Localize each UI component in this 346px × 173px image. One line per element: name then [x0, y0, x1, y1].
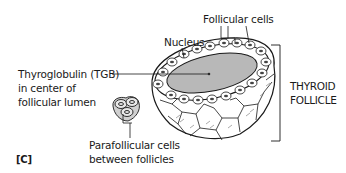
- thyroid-follicle-label-line1: THYROID: [290, 80, 335, 93]
- parafollicular-cells-drawing: [113, 97, 140, 121]
- thyroid-follicle-label-line2: FOLLICLE: [290, 94, 337, 107]
- parafollicular-label-line1: Parafollicular cells: [89, 139, 180, 152]
- parafollicular-label-line2: between follicles: [89, 153, 174, 166]
- nucleus-label: Nucleus: [164, 36, 204, 49]
- thyroglobulin-label-line2: in center of: [18, 82, 76, 95]
- thyroglobulin-label-line3: follicular lumen: [18, 96, 96, 109]
- thyroid-follicle-drawing: [150, 35, 275, 140]
- panel-label: [C]: [16, 153, 32, 166]
- follicular-cells-label: Follicular cells: [203, 13, 274, 26]
- thyroglobulin-label-line1: Thyroglobulin (TGB): [18, 68, 119, 81]
